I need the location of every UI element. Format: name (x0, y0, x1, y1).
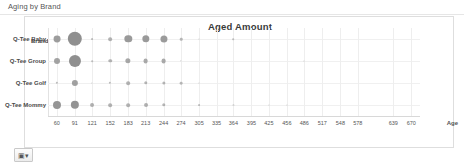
category-label: Q-Tee Baby (0, 36, 46, 42)
data-bubble[interactable] (126, 81, 130, 85)
data-bubble[interactable] (198, 104, 200, 106)
data-bubble[interactable] (71, 101, 79, 109)
gridline-vertical (411, 28, 412, 116)
panel-header: Aging by Brand (8, 2, 61, 11)
category-label: Q-Tee Golf (0, 80, 46, 86)
x-tick-label: 486 (300, 120, 309, 126)
gridline-vertical (322, 28, 323, 116)
data-bubble[interactable] (108, 37, 112, 41)
plot-area (48, 28, 420, 116)
data-bubble[interactable] (125, 35, 132, 42)
x-tick-label: 152 (106, 120, 115, 126)
gridline-vertical (199, 28, 200, 116)
x-tick-label: 305 (195, 120, 204, 126)
data-bubble[interactable] (68, 32, 82, 46)
x-tick-label: 548 (336, 120, 345, 126)
gridline-vertical (304, 28, 305, 116)
data-bubble[interactable] (69, 55, 81, 67)
data-bubble[interactable] (160, 35, 167, 42)
data-bubble[interactable] (162, 81, 165, 84)
x-tick-label: 425 (264, 120, 273, 126)
category-labels: Q-Tee BabyQ-Tee GroupQ-Tee GolfQ-Tee Mom… (0, 28, 46, 116)
x-tick-label: 121 (88, 120, 97, 126)
data-bubble[interactable] (53, 101, 61, 109)
x-tick-label: 335 (212, 120, 221, 126)
gridline-vertical (287, 28, 288, 116)
gridline-vertical (217, 28, 218, 116)
data-bubble[interactable] (91, 38, 93, 40)
x-tick-label: 578 (353, 120, 362, 126)
header-divider (0, 14, 464, 15)
category-label: Q-Tee Mommy (0, 102, 46, 108)
x-axis-ticks: 6091121152183213244274305335364395425456… (48, 120, 420, 132)
gridline-vertical (181, 28, 182, 116)
data-bubble[interactable] (144, 81, 147, 84)
x-tick-label: 91 (72, 120, 78, 126)
gridline-vertical (340, 28, 341, 116)
x-tick-label: 364 (229, 120, 238, 126)
x-tick-label: 274 (177, 120, 186, 126)
data-bubble[interactable] (142, 35, 149, 42)
x-axis-title: Age (447, 120, 458, 126)
data-bubble[interactable] (144, 103, 148, 107)
data-bubble[interactable] (180, 38, 183, 41)
data-bubble[interactable] (126, 58, 131, 63)
gridline-vertical (393, 28, 394, 116)
gridline-vertical (269, 28, 270, 116)
x-tick-label: 244 (159, 120, 168, 126)
x-tick-label: 183 (124, 120, 133, 126)
x-tick-label: 395 (247, 120, 256, 126)
data-bubble[interactable] (162, 103, 165, 106)
data-bubble[interactable] (108, 59, 111, 62)
x-axis-line (48, 116, 420, 117)
data-bubble[interactable] (108, 103, 112, 107)
data-bubble[interactable] (180, 82, 183, 85)
x-tick-label: 670 (407, 120, 416, 126)
x-tick-label: 60 (54, 120, 60, 126)
category-label: Q-Tee Group (0, 58, 46, 64)
data-bubble[interactable] (90, 103, 94, 107)
gridline-vertical (233, 28, 234, 116)
aging-by-brand-panel: Aging by Brand Aged Amount Brand Q-Tee B… (0, 0, 464, 168)
gridline-vertical (358, 28, 359, 116)
x-tick-label: 213 (141, 120, 150, 126)
table-settings-icon[interactable]: ▣▾ (14, 148, 33, 162)
gridline-vertical (251, 28, 252, 116)
data-bubble[interactable] (54, 58, 60, 64)
data-bubble[interactable] (91, 60, 93, 62)
data-bubble[interactable] (233, 38, 235, 40)
data-bubble[interactable] (143, 59, 148, 64)
x-tick-label: 456 (282, 120, 291, 126)
x-tick-label: 517 (318, 120, 327, 126)
data-bubble[interactable] (161, 59, 166, 64)
data-bubble[interactable] (72, 80, 78, 86)
x-tick-label: 639 (389, 120, 398, 126)
table-settings-glyph: ▣▾ (18, 152, 29, 159)
data-bubble[interactable] (126, 103, 130, 107)
data-bubble[interactable] (53, 36, 60, 43)
